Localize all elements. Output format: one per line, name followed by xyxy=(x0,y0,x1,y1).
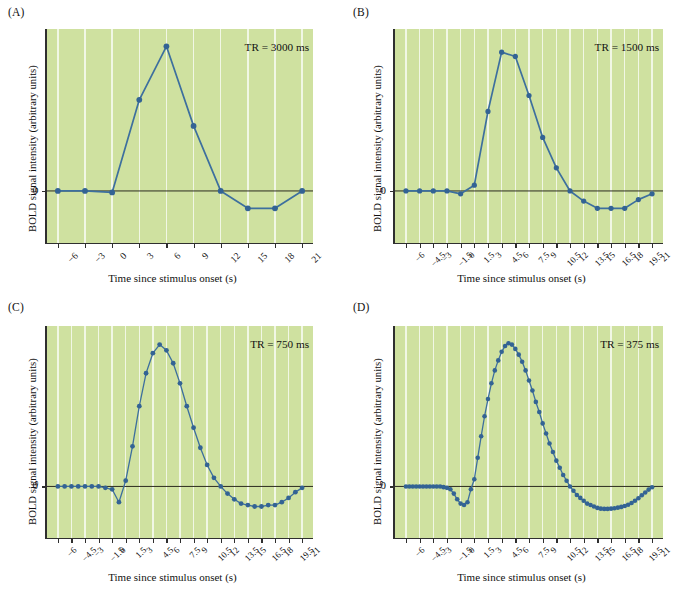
data-point xyxy=(205,463,210,468)
data-point xyxy=(136,97,142,103)
x-tick-label: −6 xyxy=(413,545,427,559)
data-point xyxy=(417,188,422,193)
data-point xyxy=(452,491,457,496)
data-point xyxy=(523,368,528,373)
data-point xyxy=(245,503,250,508)
data-point xyxy=(448,487,453,492)
data-point xyxy=(513,54,518,59)
panel-b-y-axis-label: BOLD signal intensity (arbitrary units) xyxy=(371,65,383,232)
x-tick-mark xyxy=(302,539,303,543)
x-tick-mark xyxy=(194,244,195,248)
x-tick-mark xyxy=(638,244,639,248)
plot-area xyxy=(47,326,313,538)
data-point xyxy=(225,491,230,496)
data-point xyxy=(266,503,271,508)
y-tick-zero-mark xyxy=(42,191,46,192)
data-point xyxy=(130,444,135,449)
data-point xyxy=(218,484,223,489)
data-point xyxy=(123,478,128,483)
data-point xyxy=(109,189,115,195)
plot-area xyxy=(395,29,663,243)
data-point xyxy=(571,488,576,493)
x-tick-mark xyxy=(584,244,585,248)
x-tick-mark xyxy=(153,539,154,543)
data-point xyxy=(431,188,436,193)
x-tick-mark xyxy=(406,244,407,248)
panel-d: (D) BOLD signal intensity (arbitrary uni… xyxy=(345,295,690,593)
hrf-curve xyxy=(395,29,663,243)
x-tick-label: 15 xyxy=(255,250,270,265)
x-tick-mark xyxy=(166,244,167,248)
x-tick-mark xyxy=(261,539,262,543)
data-point xyxy=(110,487,115,492)
data-point xyxy=(83,484,88,489)
x-tick-mark xyxy=(652,244,653,248)
data-point xyxy=(537,410,542,415)
x-tick-mark xyxy=(515,539,516,543)
tr-annotation: TR = 375 ms xyxy=(549,338,659,350)
data-point xyxy=(554,458,559,463)
data-point xyxy=(455,497,460,502)
x-tick-mark xyxy=(447,244,448,248)
x-tick-mark xyxy=(85,244,86,248)
x-tick-mark xyxy=(58,539,59,543)
x-tick-mark xyxy=(638,539,639,543)
data-point xyxy=(544,431,549,436)
x-tick-mark xyxy=(625,244,626,248)
hrf-polyline xyxy=(406,343,652,509)
data-point xyxy=(62,484,67,489)
panel-a: (A) BOLD signal intensity (arbitrary uni… xyxy=(0,0,345,298)
data-point xyxy=(649,191,654,196)
tr-annotation: TR = 1500 ms xyxy=(549,41,659,53)
data-point xyxy=(496,358,501,363)
x-tick-mark xyxy=(420,539,421,543)
x-tick-mark xyxy=(221,539,222,543)
panel-c-x-axis-label: Time since stimulus onset (s) xyxy=(0,571,345,583)
x-tick-mark xyxy=(85,539,86,543)
panel-a-label: (A) xyxy=(8,6,25,18)
data-point xyxy=(259,504,264,509)
x-tick-mark xyxy=(180,539,181,543)
x-tick-mark xyxy=(570,539,571,543)
data-point xyxy=(469,487,474,492)
data-point xyxy=(608,206,613,211)
data-point xyxy=(636,197,641,202)
x-tick-mark xyxy=(126,539,127,543)
data-point xyxy=(493,368,498,373)
x-tick-mark xyxy=(488,244,489,248)
x-tick-mark xyxy=(447,539,448,543)
panel-b: (B) BOLD signal intensity (arbitrary uni… xyxy=(345,0,690,298)
data-point xyxy=(245,205,251,211)
data-point xyxy=(540,135,545,140)
y-tick-zero-label: 0 xyxy=(24,479,38,491)
data-point xyxy=(272,205,278,211)
x-tick-mark xyxy=(570,244,571,248)
plot-area xyxy=(47,29,313,243)
hrf-polyline xyxy=(406,52,652,208)
x-tick-label: 12 xyxy=(228,250,243,265)
data-point xyxy=(117,500,122,505)
data-point xyxy=(239,501,244,506)
panel-a-y-axis-label: BOLD signal intensity (arbitrary units) xyxy=(26,65,38,232)
x-tick-mark xyxy=(556,244,557,248)
x-tick-mark xyxy=(474,244,475,248)
x-tick-mark xyxy=(529,244,530,248)
x-tick-mark xyxy=(275,539,276,543)
y-tick-zero-label: 0 xyxy=(24,184,38,196)
data-point xyxy=(218,188,224,194)
panel-d-x-axis-label: Time since stimulus onset (s) xyxy=(345,571,690,583)
y-tick-zero-mark xyxy=(390,486,394,487)
x-tick-mark xyxy=(302,244,303,248)
data-point xyxy=(150,351,155,356)
data-point xyxy=(252,504,257,509)
x-tick-mark xyxy=(71,539,72,543)
data-point xyxy=(76,484,81,489)
x-tick-mark xyxy=(502,244,503,248)
data-point xyxy=(444,188,449,193)
data-point xyxy=(551,450,556,455)
panel-c-label: (C) xyxy=(8,301,24,313)
data-point xyxy=(485,109,490,114)
y-axis xyxy=(45,29,47,243)
panel-b-label: (B) xyxy=(353,6,369,18)
data-point xyxy=(458,191,463,196)
